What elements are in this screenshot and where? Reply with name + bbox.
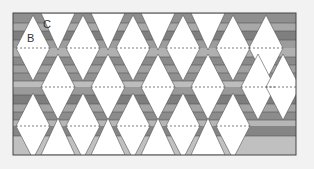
label-b: B [27, 32, 34, 44]
label-c: C [43, 18, 51, 30]
